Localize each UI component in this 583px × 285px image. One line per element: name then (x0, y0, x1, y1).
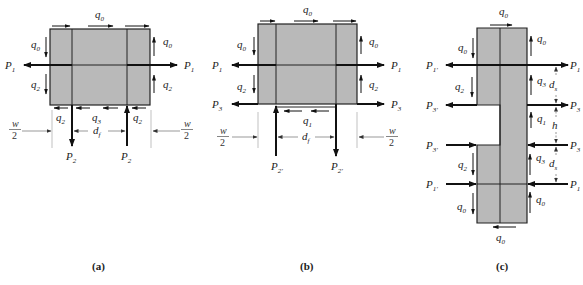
panel-c-plate (477, 28, 527, 223)
panel-a-q-right-lower-label: q2 (163, 78, 173, 93)
svg-text:2: 2 (220, 137, 225, 148)
panel-b-p3-left-label: P3 (211, 98, 223, 113)
panel-c-caption: (c) (496, 260, 509, 273)
panel-b-q-top-label: q0 (303, 3, 313, 18)
svg-text:w: w (12, 118, 19, 129)
panel-a-q-right-upper-label: q0 (163, 35, 173, 50)
svg-text:w: w (389, 125, 396, 136)
panel-b-q-right-upper-label: q0 (369, 35, 379, 50)
panel-c-ds-lower-label: ds (549, 157, 558, 172)
panel-b-p1-left-label: P1 (211, 59, 222, 74)
panel-c-p1-lower-label: P1 (569, 178, 580, 193)
panel-c-h-label: h (552, 119, 558, 131)
panel-b-w2-right-label: w 2 (386, 125, 398, 148)
panel-c-p1prime-lower-label: P1' (425, 178, 438, 193)
panel-c-q-right-center-label: q1 (537, 112, 546, 127)
panel-c-q-left-mid-upper-label: q2 (455, 80, 465, 95)
panel-c-p3prime-upper-label: P3' (425, 99, 438, 114)
panel-c-ds-upper-label: ds (549, 78, 558, 93)
svg-text:2: 2 (184, 130, 189, 141)
panel-c-q-right-mid-lower-label: q3 (536, 151, 546, 166)
panel-c: q0 q0 q0 P1' P1 q2 q3 ds P3' P3 q1 h (425, 5, 581, 273)
panel-a-df-label: df (93, 124, 102, 139)
panel-b-q-left-upper-label: q0 (237, 38, 247, 53)
panel-a-p1-right-label: P1 (183, 59, 194, 74)
svg-text:2: 2 (12, 130, 17, 141)
panel-a: P1 P1 q0 q0 q2 q0 q2 q2 q3 q2 P2 P2 (4, 8, 194, 273)
panel-a-w2-left-label: w 2 (9, 118, 21, 141)
panel-a-plate (50, 29, 150, 105)
panel-a-q-bottom-left-label: q2 (56, 111, 66, 126)
panel-a-q-top-label: q0 (95, 8, 105, 23)
panel-c-q-top-label: q0 (499, 5, 509, 20)
panel-b-caption: (b) (300, 260, 314, 273)
panel-b-q-right-lower-label: q2 (369, 78, 379, 93)
svg-text:w: w (184, 118, 191, 129)
panel-c-q-left-lower-label: q0 (457, 200, 467, 215)
panel-b-p2-left-label: P2' (270, 160, 283, 175)
panel-c-p3-lower-label: P3 (569, 139, 581, 154)
panel-c-p3prime-lower-label: P3' (425, 139, 438, 154)
panel-c-q-right-lower-label: q0 (536, 193, 546, 208)
panel-c-q-right-mid-upper-label: q3 (537, 74, 547, 89)
panel-a-q-left-upper-label: q0 (31, 38, 41, 53)
panel-c-p3-upper-label: P3 (569, 99, 581, 114)
shear-flow-diagram: P1 P1 q0 q0 q2 q0 q2 q2 q3 q2 P2 P2 (0, 0, 583, 285)
panel-c-q-left-mid-lower-label: q2 (458, 158, 468, 173)
panel-c-p1-right-label: P1 (569, 59, 580, 74)
svg-text:2: 2 (389, 137, 394, 148)
panel-a-q-left-lower-label: q2 (31, 78, 41, 93)
panel-c-p1prime-left-label: P1' (425, 59, 438, 74)
panel-b-df-label: df (302, 130, 311, 145)
panel-a-p2-right-label: P2 (120, 150, 132, 165)
panel-c-q-bottom-label: q0 (496, 231, 506, 246)
svg-text:w: w (220, 125, 227, 136)
panel-b-w2-left-label: w 2 (217, 125, 229, 148)
panel-c-q-left-upper-label: q0 (458, 41, 468, 56)
panel-b-q-bottom-label: q1 (303, 114, 312, 129)
panel-b-p1-right-label: P1 (390, 59, 401, 74)
panel-a-w2-right-label: w 2 (181, 118, 193, 141)
panel-a-caption: (a) (92, 260, 105, 273)
panel-c-q-right-upper-label: q0 (537, 32, 547, 47)
panel-b-p2-right-label: P2' (330, 160, 343, 175)
panel-b-q-left-lower-label: q2 (237, 80, 247, 95)
panel-a-p1-left-label: P1 (4, 59, 15, 74)
panel-a-q-bottom-right-label: q2 (133, 111, 143, 126)
panel-a-p2-left-label: P2 (65, 150, 77, 165)
panel-b: P1 P1 P3 P3 q0 q0 q2 q0 q2 q1 P2' P2' (211, 3, 402, 273)
panel-b-p3-right-label: P3 (390, 98, 402, 113)
